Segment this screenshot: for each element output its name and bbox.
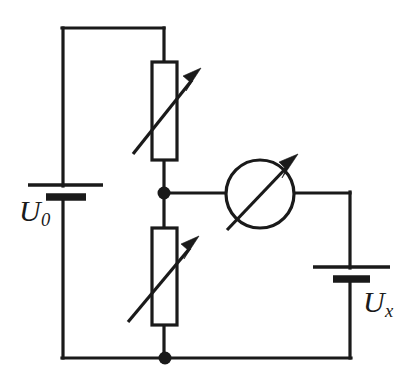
battery-ux-label-symbol: U xyxy=(363,285,385,318)
circuit-diagram-canvas: U0 Ux xyxy=(0,0,414,384)
battery-u0-label-symbol: U xyxy=(19,194,41,227)
lower-variable-resistor-symbol xyxy=(128,228,199,325)
upper-resistor-body xyxy=(152,62,177,160)
upper-variable-resistor-symbol xyxy=(133,62,201,160)
adjustable-meter-symbol xyxy=(226,154,298,230)
center-tap-junction-dot xyxy=(158,187,171,200)
bottom-rail-junction-dot xyxy=(159,352,172,365)
battery-u0-label: U0 xyxy=(19,196,50,230)
battery-ux-label-subscript: x xyxy=(385,300,393,321)
wire-group xyxy=(62,28,351,359)
battery-ux-label: Ux xyxy=(363,287,393,321)
circuit-schematic xyxy=(0,0,414,384)
battery-u0-label-subscript: 0 xyxy=(41,209,50,230)
